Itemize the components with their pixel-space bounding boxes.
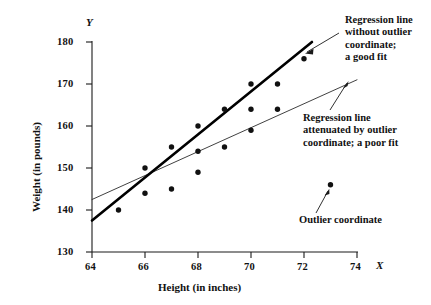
annotation-outlier: Outlier coordinate <box>299 214 382 226</box>
good-fit-arrowhead <box>305 49 314 55</box>
y-tick-label-140: 140 <box>57 204 73 215</box>
data-point <box>195 123 200 128</box>
data-point <box>142 165 147 170</box>
data-point <box>195 149 200 154</box>
data-point <box>222 107 227 112</box>
y-axis-title: Weight (in pounds) <box>30 122 42 212</box>
data-point <box>248 81 253 86</box>
x-tick-label-64: 64 <box>85 261 96 272</box>
data-points-group <box>116 56 333 213</box>
data-point <box>142 191 147 196</box>
x-axis-title: Height (in inches) <box>158 281 241 293</box>
y-tick-label-170: 170 <box>57 78 73 89</box>
data-point <box>275 81 280 86</box>
outlier-data-point <box>328 182 333 187</box>
annotation-good-fit: Regression line without outlier coordina… <box>345 14 413 64</box>
regression-outlier-figure: 180 170 160 150 140 130 64 66 68 70 72 7… <box>0 0 431 305</box>
data-point <box>169 144 174 149</box>
y-tick-label-160: 160 <box>57 120 73 131</box>
x-tick-label-68: 68 <box>191 261 202 272</box>
data-point <box>222 144 227 149</box>
x-tick-marks <box>92 252 357 258</box>
regression-line-good-fit <box>92 42 312 221</box>
data-point <box>301 56 306 61</box>
data-point <box>169 186 174 191</box>
data-point <box>275 107 280 112</box>
y-tick-label-150: 150 <box>57 162 73 173</box>
x-axis-symbol: X <box>376 259 383 271</box>
outlier-arrowhead <box>325 189 330 196</box>
data-point <box>195 170 200 175</box>
y-tick-label-180: 180 <box>57 36 73 47</box>
data-point <box>248 128 253 133</box>
annotation-poor-fit: Regression line attenuated by outlier co… <box>303 112 398 149</box>
x-tick-label-74: 74 <box>350 261 361 272</box>
y-tick-label-130: 130 <box>57 246 73 257</box>
x-tick-label-66: 66 <box>138 261 149 272</box>
data-point <box>116 207 121 212</box>
y-axis-symbol: Y <box>86 16 93 28</box>
data-point <box>248 107 253 112</box>
x-tick-label-70: 70 <box>244 261 255 272</box>
x-tick-label-72: 72 <box>297 261 308 272</box>
